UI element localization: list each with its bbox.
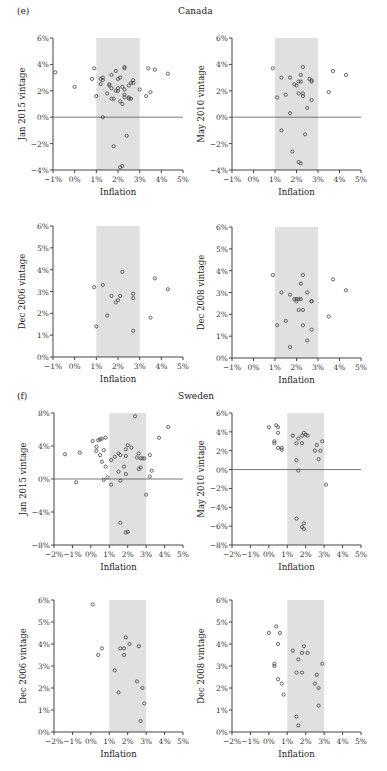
x-tick-label: 3% xyxy=(318,550,330,559)
target-band xyxy=(109,600,146,732)
data-point xyxy=(166,72,169,75)
x-tick-label: 1% xyxy=(269,363,281,372)
data-point xyxy=(280,682,283,685)
x-tick-label: 1% xyxy=(90,362,102,371)
data-point xyxy=(282,693,285,696)
x-tick-label: 3% xyxy=(318,737,330,746)
x-tick-label: 4% xyxy=(334,175,346,184)
x-tick-label: 5% xyxy=(355,363,367,372)
data-point xyxy=(147,67,150,70)
data-point xyxy=(91,439,94,442)
y-tick-label: 0% xyxy=(216,728,228,737)
data-point xyxy=(149,91,152,94)
x-tick-label: 3% xyxy=(140,550,152,559)
x-tick-label: 2% xyxy=(291,175,303,184)
x-tick-label: 3% xyxy=(134,362,146,371)
x-tick-label: 5% xyxy=(355,550,367,559)
x-tick-label: 4% xyxy=(334,363,346,372)
x-tick-label: −1% xyxy=(223,363,241,372)
x-tick-label: 2% xyxy=(112,362,124,371)
y-tick-label: 4% xyxy=(216,428,228,437)
x-tick-label: 5% xyxy=(177,175,189,184)
data-point xyxy=(273,664,276,667)
x-tick-label: 3% xyxy=(312,363,324,372)
y-tick-label: 4% xyxy=(38,640,50,649)
data-point xyxy=(276,446,279,449)
y-tick-label: 8% xyxy=(38,409,50,418)
y-axis-label: May 2010 vintage xyxy=(196,65,206,143)
y-tick-label: −6% xyxy=(210,522,228,531)
data-point xyxy=(278,631,281,634)
y-tick-label: −2% xyxy=(31,140,49,149)
data-point xyxy=(166,288,169,291)
x-tick-label: 0% xyxy=(69,362,81,371)
y-tick-label: 1% xyxy=(216,332,228,341)
x-tick-label: 5% xyxy=(177,550,189,559)
data-point xyxy=(276,431,279,434)
y-tick-label: 0% xyxy=(37,113,49,122)
x-tick-label: −1% xyxy=(63,550,81,559)
x-tick-label: 0% xyxy=(248,175,260,184)
x-tick-label: 5% xyxy=(177,362,189,371)
x-tick-label: −1% xyxy=(241,737,259,746)
x-tick-label: 2% xyxy=(112,175,124,184)
y-tick-label: 6% xyxy=(216,223,228,232)
data-point xyxy=(153,68,156,71)
data-point xyxy=(78,451,81,454)
y-tick-label: 2% xyxy=(38,684,50,693)
y-tick-label: 1% xyxy=(38,706,50,715)
x-tick-label: 1% xyxy=(281,737,293,746)
data-point xyxy=(271,67,274,70)
y-axis-label: Dec 2006 vintage xyxy=(17,254,27,330)
data-point xyxy=(148,475,151,478)
target-band xyxy=(275,38,318,170)
data-point xyxy=(73,85,76,88)
x-tick-label: −2% xyxy=(45,550,63,559)
data-point xyxy=(54,71,57,74)
data-point xyxy=(331,69,334,72)
x-tick-label: −1% xyxy=(223,175,241,184)
data-point xyxy=(327,91,330,94)
y-tick-label: 0% xyxy=(38,728,50,737)
y-tick-label: 0% xyxy=(38,475,50,484)
data-point xyxy=(271,273,274,276)
data-point xyxy=(148,453,151,456)
y-axis-label: May 2010 vintage xyxy=(196,440,206,518)
x-tick-label: 3% xyxy=(140,737,152,746)
x-tick-label: 2% xyxy=(300,550,312,559)
x-tick-label: 4% xyxy=(337,737,349,746)
x-tick-label: −1% xyxy=(241,550,259,559)
x-tick-label: 0% xyxy=(69,175,81,184)
x-tick-label: 0% xyxy=(85,550,97,559)
x-tick-label: 0% xyxy=(85,737,97,746)
x-tick-label: 2% xyxy=(122,737,134,746)
x-tick-label: −1% xyxy=(44,175,62,184)
y-axis-label: Dec 2006 vintage xyxy=(18,628,28,704)
x-tick-label: 0% xyxy=(248,363,260,372)
data-point xyxy=(153,277,156,280)
x-axis-label: Inflation xyxy=(278,562,315,572)
x-tick-label: −2% xyxy=(223,550,241,559)
y-tick-label: 3% xyxy=(37,288,49,297)
y-tick-label: 5% xyxy=(38,618,50,627)
data-point xyxy=(102,449,105,452)
data-point xyxy=(149,316,152,319)
y-axis-label: Dec 2008 vintage xyxy=(196,628,206,704)
y-tick-label: 2% xyxy=(37,87,49,96)
data-point xyxy=(276,678,279,681)
y-tick-label: 4% xyxy=(216,60,228,69)
y-tick-label: 6% xyxy=(216,596,228,605)
y-tick-label: 2% xyxy=(37,309,49,318)
x-tick-label: 0% xyxy=(263,550,275,559)
y-tick-label: −4% xyxy=(210,503,228,512)
data-point xyxy=(93,67,96,70)
y-axis-label: Jan 2015 vintage xyxy=(17,68,27,142)
x-axis-label: Inflation xyxy=(278,749,315,759)
data-point xyxy=(267,426,270,429)
x-axis-label: Inflation xyxy=(278,375,315,385)
y-tick-label: 0% xyxy=(216,354,228,363)
data-point xyxy=(95,445,98,448)
y-tick-label: 6% xyxy=(216,34,228,43)
y-tick-label: 2% xyxy=(216,87,228,96)
y-tick-label: 4% xyxy=(216,640,228,649)
